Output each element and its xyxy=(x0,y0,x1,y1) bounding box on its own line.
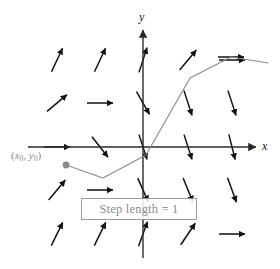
slope-field-arrow xyxy=(51,222,62,245)
x-axis-label: x xyxy=(262,140,267,152)
slope-field-arrow xyxy=(180,50,197,70)
step-length-text: Step length = 1 xyxy=(99,202,178,217)
direction-field-figure: x y (x0, y0) Step length = 1 xyxy=(0,0,280,269)
initial-point-label: (x0, y0) xyxy=(11,150,41,161)
slope-field-arrow xyxy=(228,91,236,116)
slope-field-arrow xyxy=(94,222,105,245)
slope-field-arrow xyxy=(47,95,67,112)
slope-field-arrow xyxy=(52,48,63,72)
slope-field-arrow xyxy=(228,178,237,202)
slope-field-arrow xyxy=(184,91,192,116)
step-length-annotation: Step length = 1 xyxy=(81,198,197,220)
solution-curve xyxy=(66,57,268,178)
slope-field-arrow xyxy=(181,223,196,245)
plot-canvas xyxy=(0,0,280,269)
initial-point-marker xyxy=(63,162,70,169)
slope-field-arrow xyxy=(95,48,106,72)
y-axis-label: y xyxy=(139,11,144,23)
slope-field-arrow xyxy=(49,180,66,200)
